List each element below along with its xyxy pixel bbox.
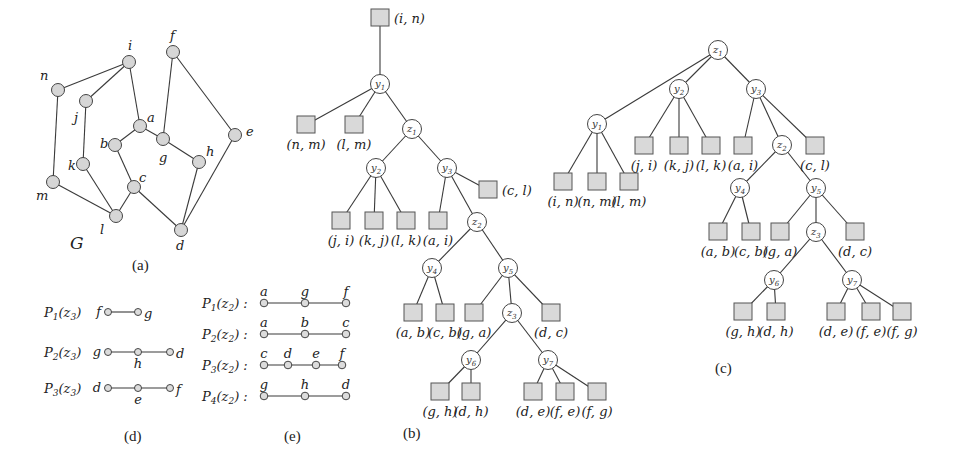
caption-c: (c) (715, 360, 732, 377)
tree-b-leaf-ga (465, 304, 483, 321)
tree-c-leaf-dh (767, 303, 785, 320)
graph-edge-j-k (83, 101, 86, 164)
path-e-vertex-c (260, 361, 268, 369)
path-d-vertex-label: f (95, 304, 103, 319)
tree-c-leaf-label-ji: (j, i) (631, 158, 658, 173)
tree-b-leaf-label-de: (d, e) (516, 404, 550, 419)
path-d-label-3: P3​(z3​) (43, 381, 81, 398)
tree-c-leaf-fg (893, 303, 911, 320)
graph-vertex-k (77, 158, 90, 171)
vertex-label-a: a (147, 110, 155, 125)
path-d-vertex-label: d (93, 380, 101, 395)
path-e-vertex-label: a (260, 315, 268, 330)
graph-name-label: G (70, 233, 84, 253)
tree-c-leaf-cb (742, 223, 760, 240)
path-e-label-1: P1​(z2​) : (201, 296, 248, 313)
graph-vertex-j (80, 95, 93, 108)
graph-edge-f-g (163, 52, 173, 139)
tree-b-leaf-de (524, 383, 542, 400)
tree-c-leaf-label-in: (i, n) (548, 194, 579, 209)
vertex-label-f: f (169, 28, 177, 43)
panel-a-graph-g: nifjaebghkcmldG(a) (36, 28, 254, 274)
graph-edge-k-l (83, 164, 116, 216)
tree-b-leaf-cl (479, 181, 497, 198)
graph-vertex-n (52, 84, 65, 97)
tree-b-leaf-nm (297, 116, 315, 133)
path-e-vertex-label: f (343, 284, 351, 299)
tree-b-leaf-fe (556, 383, 574, 400)
vertex-label-l: l (100, 222, 104, 237)
tree-c-leaf-kj (670, 137, 688, 154)
tree-c-leaf-lk (702, 137, 720, 154)
graph-vertex-a (134, 120, 147, 133)
graph-vertex-l (110, 210, 123, 223)
panel-e-paths-z2: P1​(z2​) :agfP2​(z2​) :abcP3​(z2​) :cdef… (201, 284, 351, 445)
path-d-vertex-f (105, 309, 112, 316)
tree-c-leaf-lm (620, 173, 638, 190)
graph-vertex-f (167, 46, 180, 59)
tree-b-leaf-label-ga: (g, a) (457, 325, 491, 340)
caption-e: (e) (284, 428, 301, 445)
graph-vertex-i (123, 56, 136, 69)
graph-vertex-b (109, 139, 122, 152)
vertex-label-k: k (68, 158, 76, 173)
path-e-vertex-h (301, 392, 309, 400)
vertex-label-m: m (36, 188, 48, 203)
tree-c-leaf-ji (635, 137, 653, 154)
path-e-vertex-label: f (339, 346, 347, 361)
tree-b-leaf-label-dh: (d, h) (453, 404, 488, 419)
tree-b-leaf-dh (462, 383, 480, 400)
tree-c-leaf-label-fe: (f, e) (856, 324, 886, 339)
vertex-label-c: c (139, 170, 147, 185)
path-d-vertex-label: e (134, 392, 142, 407)
graph-edge-f-e (173, 52, 235, 135)
tree-b-leaf-in (371, 9, 389, 26)
vertex-label-d: d (176, 238, 184, 253)
graph-vertex-m (47, 176, 60, 189)
tree-b-leaf-label-lm: (l, m) (337, 137, 372, 152)
tree-c-leaf-label-kj: (k, j) (664, 158, 694, 173)
path-e-vertex-a (260, 330, 268, 338)
tree-c-leaf-ga (771, 223, 789, 240)
path-d-label-1: P1​(z3​) (43, 305, 81, 322)
path-e-vertex-g (301, 299, 309, 307)
tree-c-leaf-cl (806, 137, 824, 154)
path-e-vertex-label: g (301, 284, 309, 299)
graph-edge-i-a (129, 62, 140, 126)
tree-b-leaf-dc (542, 304, 560, 321)
tree-c-leaf-label-ab: (a, b) (701, 244, 735, 259)
tree-c-leaf-label-de: (d, e) (819, 324, 853, 339)
vertex-label-i: i (128, 38, 132, 53)
path-e-vertex-f (342, 299, 350, 307)
tree-c-leaf-gh (734, 303, 752, 320)
path-e-vertex-label: c (260, 346, 268, 361)
tree-b-leaf-label-lk: (l, k) (391, 233, 421, 248)
tree-c-leaf-label-cl: (c, l) (800, 158, 830, 173)
graph-edge-n-m (53, 90, 58, 182)
tree-c-leaf-label-dc: (d, c) (838, 244, 872, 259)
vertex-label-e: e (246, 124, 254, 139)
tree-c-leaf-fe (862, 303, 880, 320)
vertex-label-n: n (40, 68, 48, 83)
tree-c-leaf-label-gh: (g, h) (725, 324, 760, 339)
path-d-vertex-label: g (93, 344, 101, 359)
path-e-vertex-label: a (260, 284, 268, 299)
tree-b-leaf-cb (436, 304, 454, 321)
graph-edge-m-l (53, 182, 116, 216)
tree-c-leaf-de (827, 303, 845, 320)
graph-vertex-g (157, 133, 170, 146)
tree-b-leaf-label-gh: (g, h) (422, 404, 457, 419)
graph-edge-h-d (181, 162, 199, 230)
tree-b-leaf-kj (365, 212, 383, 229)
caption-d: (d) (124, 428, 142, 445)
vertex-label-b: b (100, 136, 108, 151)
path-d-vertex-label: d (176, 346, 184, 361)
path-d-vertex-d (105, 385, 112, 392)
tree-c-leaf-label-ai: (a, i) (728, 158, 758, 173)
path-e-label-3: P3​(z2​) : (201, 358, 248, 375)
panel-b-tree: (i, n)(n, m)(l, m)(c, l)(j, i)(k, j)(l, … (286, 9, 612, 442)
graph-vertex-d (175, 224, 188, 237)
tree-b-leaf-label-cl: (c, l) (502, 183, 532, 198)
tree-c-leaf-label-fg: (f, g) (886, 324, 917, 339)
tree-b-leaf-label-fe: (f, e) (550, 404, 580, 419)
